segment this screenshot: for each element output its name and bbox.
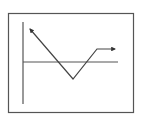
v-shaped-path-with-arrows — [30, 29, 115, 79]
line-path-diagram — [0, 0, 146, 115]
diagram-frame — [9, 14, 134, 113]
